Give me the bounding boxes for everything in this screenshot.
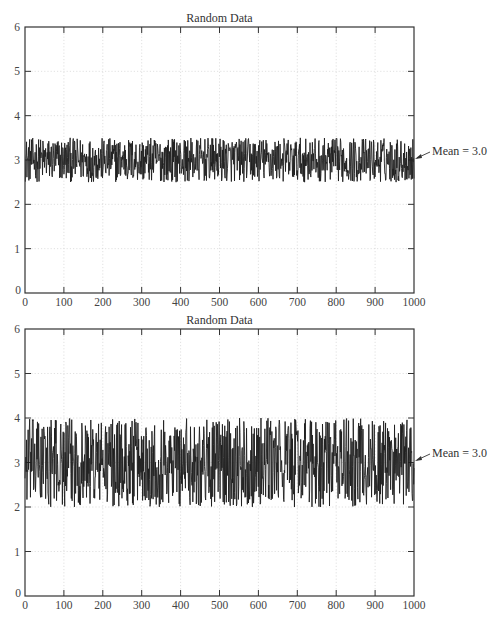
arrowhead-icon xyxy=(415,456,422,461)
bottom-plot-x-tick-labels: 01002003004005006007008009001000 xyxy=(22,599,426,611)
y-tick-label: 6 xyxy=(14,323,20,335)
x-tick-label: 600 xyxy=(250,599,268,611)
bottom-plot-series-line xyxy=(25,418,414,507)
bottom-plot-mean-annotation: Mean = 3.0 xyxy=(415,446,487,461)
x-tick-label: 1000 xyxy=(403,599,426,611)
y-tick-label: 0 xyxy=(15,587,21,599)
top-plot-annotation-text: Mean = 3.0 xyxy=(432,144,487,158)
y-tick-label: 2 xyxy=(14,198,20,210)
y-tick-label: 1 xyxy=(14,243,20,255)
x-tick-label: 300 xyxy=(133,296,151,308)
top-plot-mean-annotation: Mean = 3.0 xyxy=(415,144,487,159)
x-tick-label: 700 xyxy=(289,296,307,308)
x-tick-label: 500 xyxy=(211,599,229,611)
top-plot: Random Data 0100200300400500600700800900… xyxy=(14,11,487,308)
y-tick-label: 5 xyxy=(14,65,20,77)
x-tick-label: 400 xyxy=(172,599,190,611)
bottom-plot: Random Data 0100200300400500600700800900… xyxy=(14,313,487,611)
x-tick-label: 300 xyxy=(133,599,151,611)
x-tick-label: 200 xyxy=(94,599,112,611)
chart-canvas: Random Data 0100200300400500600700800900… xyxy=(0,0,500,625)
y-tick-label: 2 xyxy=(14,501,20,513)
x-tick-label: 500 xyxy=(211,296,229,308)
x-tick-label: 800 xyxy=(328,296,346,308)
bottom-plot-annotation-text: Mean = 3.0 xyxy=(432,446,487,460)
x-tick-label: 100 xyxy=(55,599,73,611)
bottom-plot-title: Random Data xyxy=(186,313,253,327)
x-tick-label: 1000 xyxy=(403,296,426,308)
arrowhead-icon xyxy=(415,154,422,159)
top-plot-y-tick-labels: 0123456 xyxy=(14,21,21,296)
x-tick-label: 900 xyxy=(366,296,384,308)
x-tick-label: 100 xyxy=(55,296,73,308)
x-tick-label: 800 xyxy=(328,599,346,611)
top-plot-x-tick-labels: 01002003004005006007008009001000 xyxy=(22,296,426,308)
x-tick-label: 0 xyxy=(22,296,28,308)
x-tick-label: 0 xyxy=(22,599,28,611)
y-tick-label: 5 xyxy=(14,368,20,380)
y-tick-label: 4 xyxy=(14,110,20,122)
bottom-plot-y-tick-labels: 0123456 xyxy=(14,323,21,599)
y-tick-label: 3 xyxy=(14,457,20,469)
y-tick-label: 3 xyxy=(14,154,20,166)
top-plot-series-line xyxy=(25,138,414,182)
top-plot-title: Random Data xyxy=(186,11,253,25)
x-tick-label: 200 xyxy=(94,296,112,308)
x-tick-label: 700 xyxy=(289,599,307,611)
x-tick-label: 400 xyxy=(172,296,190,308)
x-tick-label: 600 xyxy=(250,296,268,308)
y-tick-label: 0 xyxy=(15,284,21,296)
y-tick-label: 1 xyxy=(14,546,20,558)
x-tick-label: 900 xyxy=(366,599,384,611)
y-tick-label: 6 xyxy=(14,21,20,33)
y-tick-label: 4 xyxy=(14,412,20,424)
